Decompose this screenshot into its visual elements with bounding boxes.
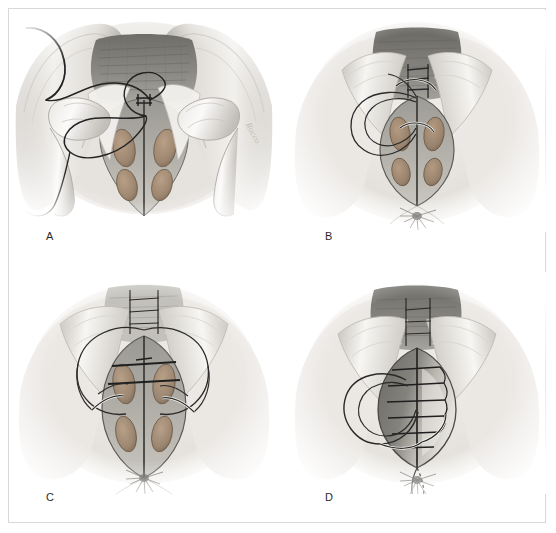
panel-b: Rocco <box>288 10 546 232</box>
panel-d <box>288 272 546 494</box>
panel-c <box>10 272 278 494</box>
panel-c-illustration <box>10 272 278 494</box>
figure-root: Rocco A <box>0 0 556 533</box>
panel-label-b: B <box>325 231 333 242</box>
panel-label-c: C <box>46 492 54 503</box>
panel-label-d: D <box>325 492 333 503</box>
panel-label-a: A <box>46 231 54 242</box>
panel-b-illustration <box>288 10 546 232</box>
panel-d-illustration <box>288 272 546 494</box>
panel-a-illustration <box>10 10 278 232</box>
panel-a: Rocco <box>10 10 278 232</box>
